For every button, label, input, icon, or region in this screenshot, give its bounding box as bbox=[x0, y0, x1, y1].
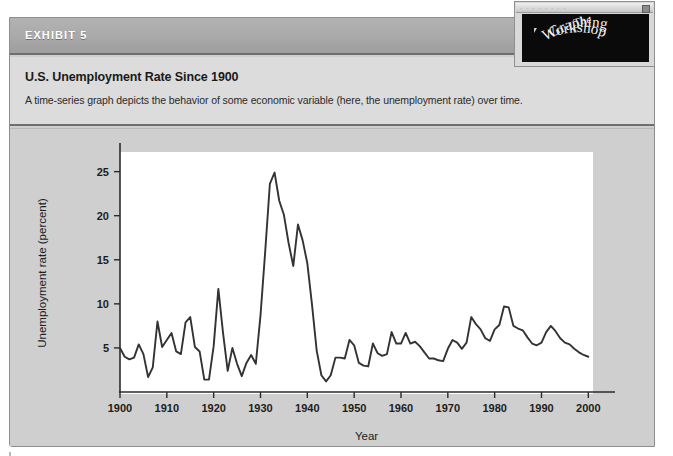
exhibit-card: EXHIBIT 5 U.S. Unemployment Rate Since 1… bbox=[9, 17, 655, 447]
x-tick-label: 1970 bbox=[436, 402, 460, 414]
figure-panel: 5101520251900191019201930194019501960197… bbox=[10, 128, 654, 446]
x-tick-label: 1960 bbox=[389, 402, 413, 414]
logo-cursor-icon bbox=[534, 28, 537, 33]
logo-window-menu-dots: · · · · · · · · bbox=[520, 5, 567, 11]
x-tick-label: 1940 bbox=[295, 402, 319, 414]
y-tick-label: 25 bbox=[97, 166, 109, 178]
x-tick-label: 1920 bbox=[201, 402, 225, 414]
y-axis-title: Unemployment rate (percent) bbox=[36, 198, 48, 348]
y-tick-label: 5 bbox=[103, 342, 109, 354]
exhibit-title: U.S. Unemployment Rate Since 1900 bbox=[25, 70, 238, 84]
screenshot-root: EXHIBIT 5 U.S. Unemployment Rate Since 1… bbox=[0, 0, 673, 456]
graphing-workshop-logo-window: · · · · · · · · The Graphing Workshop bbox=[514, 1, 655, 67]
unemployment-series-line bbox=[120, 173, 588, 382]
page-edge-mark bbox=[9, 452, 11, 456]
exhibit-subtitle: A time-series graph depicts the behavior… bbox=[25, 94, 523, 106]
logo-line-workshop: Workshop bbox=[540, 19, 609, 43]
logo-window-close-icon[interactable] bbox=[642, 5, 650, 13]
y-tick-label: 10 bbox=[97, 298, 109, 310]
x-tick-label: 1900 bbox=[108, 402, 132, 414]
x-tick-label: 1910 bbox=[155, 402, 179, 414]
x-tick-label: 1950 bbox=[342, 402, 366, 414]
logo-screen: The Graphing Workshop bbox=[522, 14, 649, 62]
logo-window-titlebar: · · · · · · · · bbox=[516, 3, 653, 13]
exhibit-label: EXHIBIT 5 bbox=[25, 29, 87, 41]
unemployment-line-chart: 5101520251900191019201930194019501960197… bbox=[10, 129, 654, 447]
y-tick-label: 15 bbox=[97, 254, 109, 266]
x-axis-title: Year bbox=[355, 430, 378, 442]
x-tick-label: 1990 bbox=[529, 402, 553, 414]
exhibit-caption-band: U.S. Unemployment Rate Since 1900 A time… bbox=[10, 57, 654, 126]
x-tick-label: 1930 bbox=[248, 402, 272, 414]
y-tick-label: 20 bbox=[97, 210, 109, 222]
x-tick-label: 2000 bbox=[576, 402, 600, 414]
x-tick-label: 1980 bbox=[482, 402, 506, 414]
